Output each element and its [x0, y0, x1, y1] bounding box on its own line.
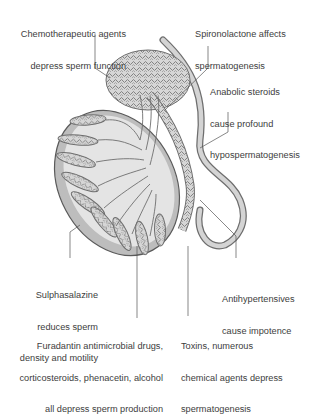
label-anabolic: Anabolic steroids cause profound hypospe… — [210, 66, 300, 171]
label-line: Antihypertensives — [222, 294, 295, 305]
label-furadantin: Furadantin antimicrobial drugs, corticos… — [0, 320, 163, 418]
label-line: chemical agents depress — [181, 373, 283, 384]
label-line: Sulphasalazine — [0, 290, 98, 301]
label-line: Toxins, numerous — [181, 341, 283, 352]
label-line: Spironolactone affects — [195, 29, 286, 40]
label-line: all depress sperm production — [0, 404, 163, 415]
label-line: Furadantin antimicrobial drugs, — [0, 341, 163, 352]
label-chemotherapeutic: Chemotherapeutic agents depress sperm fu… — [0, 8, 126, 82]
testis-body — [30, 89, 204, 278]
label-line: Chemotherapeutic agents — [0, 29, 126, 40]
label-line: Anabolic steroids — [210, 87, 300, 98]
label-line: spermatogenesis — [181, 404, 283, 415]
label-toxins: Toxins, numerous chemical agents depress… — [181, 320, 283, 418]
label-line: corticosteroids, phenacetin, alcohol — [0, 373, 163, 384]
label-line: cause profound — [210, 119, 300, 130]
label-line: hypospermatogenesis — [210, 150, 300, 161]
label-line: depress sperm function — [0, 61, 126, 72]
